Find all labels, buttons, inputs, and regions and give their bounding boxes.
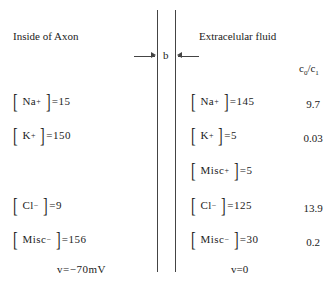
ratio-cl: 13.9 [293,202,332,214]
right-potential: v=0 [231,263,248,275]
ion-right-cl: [ Cl− ]=125 [190,196,252,214]
ion-left-na: [ Na+ ]=15 [12,92,70,110]
left-potential: v=−70mV [57,263,106,275]
ratio-misc: 0.2 [293,236,332,248]
ratio-k: 0.03 [293,132,332,144]
ratio-header: c0/c1 [299,62,319,77]
ion-left-cl: [ Cl− ]=9 [12,196,62,214]
inside-axon-title: Inside of Axon [13,30,78,42]
membrane-inner-line [157,10,158,272]
ion-left-misc: [ Misc− ]=156 [12,230,87,248]
ion-left-k: [ K+ ]=150 [12,126,71,144]
arrow-left-head-icon [177,52,182,58]
ion-right-na: [ Na+ ]=145 [190,92,254,110]
extracellular-title: Extracelular fluid [199,30,276,42]
ion-right-misc-neg: [ Misc− ]=30 [190,230,259,248]
ion-right-misc-pos: [ Misc+ ]=5 [190,161,253,179]
arrow-right-head-icon [151,52,156,58]
membrane-thickness-label: b [163,49,169,61]
ratio-na: 9.7 [293,98,332,110]
ion-right-k: [ K+ ]=5 [190,126,237,144]
membrane-outer-line [175,10,176,272]
